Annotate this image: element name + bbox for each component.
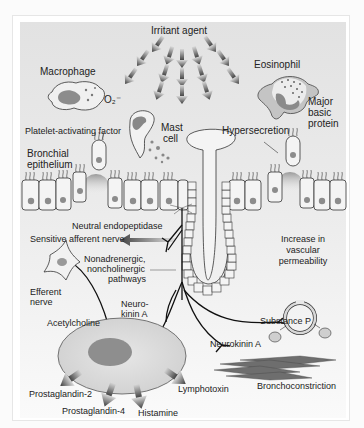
label-o2-radical: O₂⁻: [104, 95, 121, 105]
label-nanc-line1: Nonadrenergic,: [84, 254, 146, 264]
label-substance-p: Substance P: [260, 316, 311, 326]
label-neutral-endopeptidase: Neutral endopeptidase: [72, 221, 163, 231]
label-neurokinin-a-split-line2: kinin A: [121, 309, 148, 319]
label-efferent-nerve-line2: nerve: [30, 297, 53, 307]
label-hypersecretion: Hypersecretion: [222, 126, 289, 136]
label-mast-cell-line2: cell: [163, 134, 178, 144]
label-nanc-line3: pathways: [108, 274, 146, 284]
label-eosinophil: Eosinophil: [254, 60, 300, 70]
label-lymphotoxin: Lymphotoxin: [178, 384, 229, 394]
label-nanc-line2: noncholinergic: [87, 264, 145, 274]
label-acetylcholine: Acetylcholine: [47, 318, 100, 328]
label-sensitive-afferent-nerve: Sensitive afferent nerve: [30, 234, 124, 244]
label-bronchial-epithelium-line1: Bronchial: [27, 149, 69, 159]
irritant-arrows: [120, 33, 244, 104]
label-irritant-agent: Irritant agent: [151, 26, 207, 36]
smooth-muscle-fibers: [214, 356, 336, 380]
raised-epithelial-cell: [92, 132, 106, 170]
label-prostaglandin-2: Prostaglandin-2: [29, 389, 92, 399]
label-bronchial-epithelium-line2: epithelium: [27, 160, 73, 170]
label-histamine: Histamine: [138, 408, 178, 418]
smooth-muscle-target-cell: [58, 318, 186, 394]
diagram-artwork: [0, 0, 364, 428]
label-platelet-activating-factor: Platelet-activating factor: [25, 126, 121, 136]
label-prostaglandin-4: Prostaglandin-4: [62, 406, 125, 416]
epithelial-damage-left: [84, 174, 108, 194]
label-major-basic-protein: Major basic protein: [308, 96, 348, 129]
label-macrophage: Macrophage: [40, 67, 96, 77]
macrophage-cell: [48, 82, 104, 110]
label-mast-cell-line1: Mast: [161, 123, 183, 133]
label-bronchoconstriction: Bronchoconstriction: [257, 381, 336, 391]
label-neurokinin-a: Neurokinin A: [210, 339, 261, 349]
label-efferent-nerve-line1: Efferent: [30, 287, 61, 297]
label-vascular-line1: Increase in: [272, 234, 334, 244]
efferent-nerve-cell: [44, 240, 80, 280]
label-vascular-line2: vascular: [272, 245, 334, 255]
label-neurokinin-a-split-line1: Neuro-: [121, 299, 149, 309]
label-vascular-line3: permeability: [272, 256, 334, 266]
afferent-arrow: [120, 234, 175, 246]
